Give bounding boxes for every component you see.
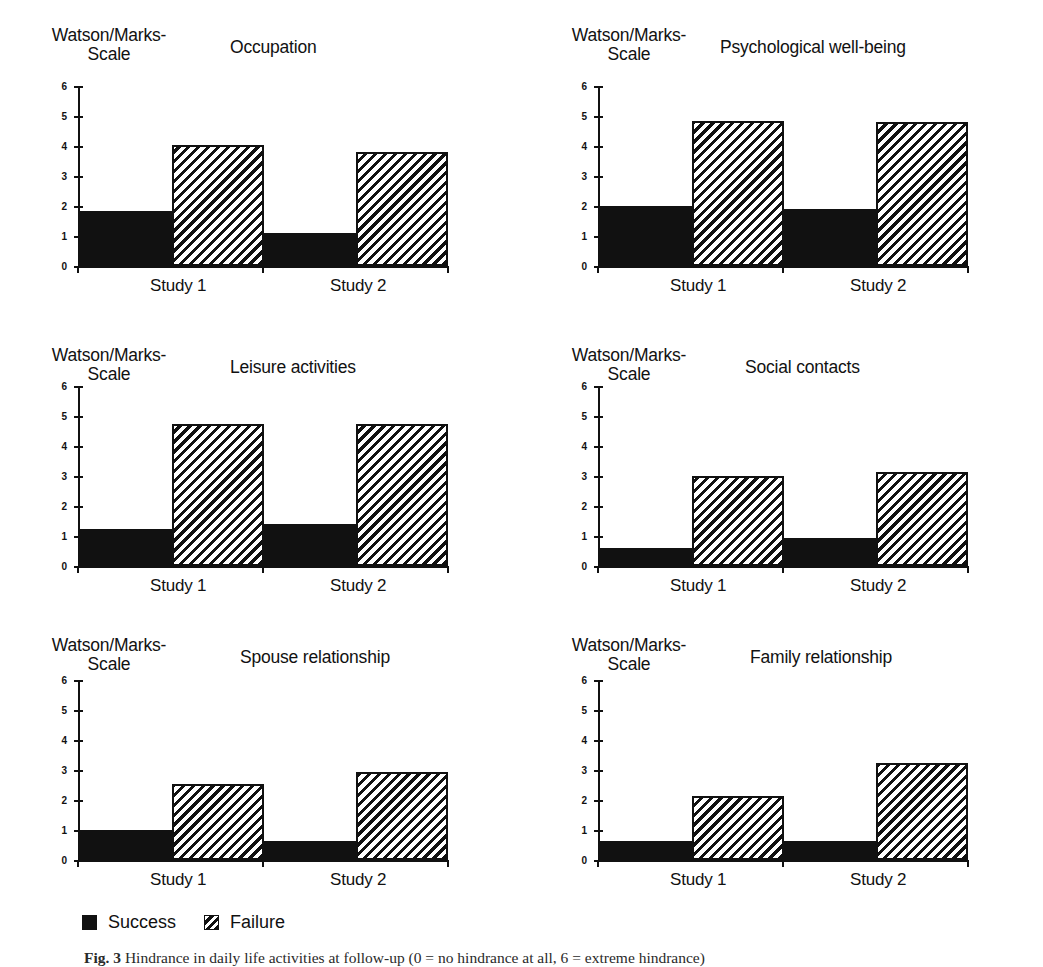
y-axis-tick-label: 6 bbox=[61, 676, 67, 686]
y-axis-tick-label: 5 bbox=[61, 112, 67, 122]
x-axis-tick bbox=[262, 566, 264, 573]
chart-title: Psychological well-being bbox=[720, 38, 906, 57]
x-axis-tick bbox=[967, 566, 969, 573]
y-axis-title-line2: Scale bbox=[554, 365, 704, 384]
plot-area: 0123456 bbox=[598, 88, 968, 268]
y-axis-tick-label: 5 bbox=[581, 412, 587, 422]
chart-title: Leisure activities bbox=[230, 358, 356, 377]
y-axis-tick-label: 0 bbox=[581, 856, 587, 866]
x-axis-tick bbox=[77, 566, 79, 573]
hatched-square-icon bbox=[204, 915, 219, 930]
bar-success bbox=[80, 529, 172, 567]
y-axis-tick-label: 1 bbox=[61, 826, 67, 836]
panel-header: Watson/Marks-ScaleLeisure activities bbox=[0, 320, 520, 382]
bar-success bbox=[784, 841, 876, 861]
panel-header: Watson/Marks-ScalePsychological well-bei… bbox=[520, 0, 1043, 62]
y-axis-tick-label: 6 bbox=[581, 82, 587, 92]
figure-caption-prefix: Fig. 3 bbox=[84, 949, 121, 966]
y-axis-tick-label: 4 bbox=[581, 142, 587, 152]
bar-success bbox=[600, 841, 692, 861]
bars-container bbox=[600, 388, 968, 566]
x-axis-tick bbox=[77, 266, 79, 273]
x-axis-tick bbox=[77, 860, 79, 867]
y-axis-tick-label: 4 bbox=[581, 442, 587, 452]
x-axis-tick bbox=[782, 860, 784, 867]
bar-success bbox=[600, 206, 692, 266]
y-axis-title-line1: Watson/Marks- bbox=[554, 26, 704, 45]
y-axis-title-line1: Watson/Marks- bbox=[554, 346, 704, 365]
figure-caption: Fig. 3 Hindrance in daily life activitie… bbox=[84, 948, 984, 967]
x-axis-tick bbox=[597, 566, 599, 573]
y-axis-title-line2: Scale bbox=[34, 365, 184, 384]
y-axis-title: Watson/Marks-Scale bbox=[34, 636, 184, 674]
plot-area: 0123456 bbox=[78, 682, 448, 862]
y-axis-title-line2: Scale bbox=[554, 45, 704, 64]
chart-panel: Watson/Marks-ScaleSocial contacts0123456… bbox=[520, 320, 1043, 610]
figure-caption-text: Hindrance in daily life activities at fo… bbox=[125, 949, 705, 966]
bars-container bbox=[600, 88, 968, 266]
x-axis-tick bbox=[262, 860, 264, 867]
bar-failure bbox=[876, 472, 968, 567]
y-axis-tick-label: 4 bbox=[581, 736, 587, 746]
y-axis-tick-label: 0 bbox=[581, 562, 587, 572]
bar-success bbox=[80, 830, 172, 860]
bar-failure bbox=[692, 121, 784, 267]
y-axis-tick-label: 4 bbox=[61, 736, 67, 746]
y-axis-title: Watson/Marks-Scale bbox=[554, 346, 704, 384]
y-axis-tick-label: 4 bbox=[61, 442, 67, 452]
bar-success bbox=[784, 538, 876, 566]
bar-failure bbox=[692, 476, 784, 566]
x-axis-tick bbox=[262, 266, 264, 273]
y-axis-title-line2: Scale bbox=[34, 655, 184, 674]
x-axis-group-label: Study 2 bbox=[330, 276, 386, 296]
bar-success bbox=[264, 524, 356, 566]
y-axis-tick-label: 1 bbox=[581, 232, 587, 242]
chart-title: Occupation bbox=[230, 38, 317, 57]
x-axis-group-label: Study 1 bbox=[150, 870, 206, 890]
panel-header: Watson/Marks-ScaleFamily relationship bbox=[520, 610, 1043, 672]
legend: Success Failure bbox=[82, 913, 285, 931]
bar-success bbox=[784, 209, 876, 266]
x-axis-group-label: Study 1 bbox=[150, 276, 206, 296]
bar-success bbox=[264, 841, 356, 861]
x-axis-group-label: Study 1 bbox=[150, 576, 206, 596]
legend-item-success: Success bbox=[82, 913, 176, 931]
x-axis-tick bbox=[782, 266, 784, 273]
y-axis-tick-label: 6 bbox=[61, 382, 67, 392]
y-axis-tick-label: 1 bbox=[581, 532, 587, 542]
y-axis-tick-label: 2 bbox=[61, 502, 67, 512]
bar-failure bbox=[356, 424, 448, 567]
bar-success bbox=[600, 548, 692, 566]
chart-title: Spouse relationship bbox=[240, 648, 390, 667]
x-axis-tick bbox=[967, 266, 969, 273]
y-axis-tick-label: 2 bbox=[581, 796, 587, 806]
x-axis-tick bbox=[447, 266, 449, 273]
y-axis-tick-label: 3 bbox=[581, 766, 587, 776]
panel-header: Watson/Marks-ScaleOccupation bbox=[0, 0, 520, 62]
bar-success bbox=[80, 211, 172, 267]
y-axis-tick-label: 6 bbox=[581, 382, 587, 392]
chart-panel: Watson/Marks-ScalePsychological well-bei… bbox=[520, 0, 1043, 320]
plot-area: 0123456 bbox=[78, 388, 448, 568]
chart-panel: Watson/Marks-ScaleOccupation0123456Study… bbox=[0, 0, 520, 320]
y-axis-title: Watson/Marks-Scale bbox=[34, 26, 184, 64]
chart-panel-grid: Watson/Marks-ScaleOccupation0123456Study… bbox=[0, 0, 1043, 900]
y-axis-tick-label: 2 bbox=[61, 202, 67, 212]
x-axis-group-label: Study 2 bbox=[850, 870, 906, 890]
y-axis-tick-label: 3 bbox=[61, 172, 67, 182]
x-axis-group-label: Study 1 bbox=[670, 276, 726, 296]
bar-failure bbox=[172, 424, 264, 567]
y-axis-tick-label: 5 bbox=[61, 706, 67, 716]
plot-area: 0123456 bbox=[598, 388, 968, 568]
x-axis-tick bbox=[597, 266, 599, 273]
bars-container bbox=[80, 682, 448, 860]
bars-container bbox=[80, 388, 448, 566]
plot-area: 0123456 bbox=[598, 682, 968, 862]
x-axis-tick bbox=[447, 566, 449, 573]
x-axis-group-label: Study 1 bbox=[670, 870, 726, 890]
y-axis-tick-label: 0 bbox=[581, 262, 587, 272]
y-axis-tick-label: 6 bbox=[61, 82, 67, 92]
y-axis-title: Watson/Marks-Scale bbox=[34, 346, 184, 384]
y-axis-tick-label: 2 bbox=[61, 796, 67, 806]
x-axis-tick bbox=[967, 860, 969, 867]
